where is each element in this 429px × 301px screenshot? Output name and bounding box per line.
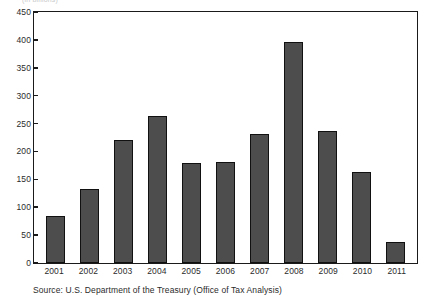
- x-axis-label-2010: 2010: [345, 266, 379, 276]
- x-axis-label-2006: 2006: [208, 266, 242, 276]
- y-axis-tick: 250: [9, 119, 34, 129]
- x-axis-labels: 2001200220032004200520062007200820092010…: [33, 266, 418, 276]
- y-axis-tick: 200: [9, 146, 34, 156]
- bar-chart-figure: (in billions) 05010015020025030035040045…: [0, 0, 429, 301]
- bar-slot: [208, 12, 242, 263]
- x-axis-label-2001: 2001: [37, 266, 71, 276]
- x-axis-label-2011: 2011: [380, 266, 414, 276]
- x-axis-label-2004: 2004: [140, 266, 174, 276]
- y-axis-tick-label: 50: [9, 230, 34, 240]
- bar-2007: [250, 134, 269, 263]
- bar-slot: [106, 12, 140, 263]
- y-axis-tick-label: 300: [9, 91, 34, 101]
- y-axis-tick: 100: [9, 202, 34, 212]
- bar-2003: [114, 140, 133, 263]
- y-axis-tick-label: 0: [9, 258, 34, 268]
- y-axis-tick-label: 400: [9, 35, 34, 45]
- x-axis-label-2008: 2008: [277, 266, 311, 276]
- bar-2005: [182, 163, 201, 263]
- y-axis-tick: 300: [9, 91, 34, 101]
- y-axis-tick: 0: [9, 258, 34, 268]
- bar-slot: [277, 12, 311, 263]
- clipped-header-text: (in billions): [22, 0, 58, 4]
- y-axis-tick: 350: [9, 63, 34, 73]
- y-axis-tick-label: 100: [9, 202, 34, 212]
- bar-slot: [345, 12, 379, 263]
- bar-2002: [80, 189, 99, 263]
- x-axis-label-2005: 2005: [174, 266, 208, 276]
- bar-series: [34, 12, 417, 263]
- y-axis-tick-label: 150: [9, 174, 34, 184]
- bar-slot: [140, 12, 174, 263]
- x-axis-label-2002: 2002: [71, 266, 105, 276]
- y-axis-tick: 450: [9, 7, 34, 17]
- y-axis-tick: 400: [9, 35, 34, 45]
- bar-slot: [38, 12, 72, 263]
- bar-2011: [386, 242, 405, 263]
- bar-2006: [216, 162, 235, 264]
- bar-2008: [284, 42, 303, 263]
- bar-slot: [72, 12, 106, 263]
- bar-slot: [379, 12, 413, 263]
- bar-2001: [46, 216, 65, 263]
- source-note: Source: U.S. Department of the Treasury …: [33, 285, 282, 295]
- bar-2004: [148, 116, 167, 263]
- bar-slot: [243, 12, 277, 263]
- y-axis-tick-label: 450: [9, 7, 34, 17]
- x-axis-label-2009: 2009: [311, 266, 345, 276]
- y-axis-tick-label: 250: [9, 119, 34, 129]
- bar-slot: [174, 12, 208, 263]
- y-axis-tick: 50: [9, 230, 34, 240]
- bar-2009: [318, 131, 337, 263]
- bar-slot: [311, 12, 345, 263]
- y-axis-tick: 150: [9, 174, 34, 184]
- x-axis-label-2007: 2007: [243, 266, 277, 276]
- bar-2010: [352, 172, 371, 263]
- plot-area: 050100150200250300350400450: [33, 11, 418, 264]
- y-axis-tick-label: 200: [9, 146, 34, 156]
- y-axis-tick-label: 350: [9, 63, 34, 73]
- x-axis-label-2003: 2003: [106, 266, 140, 276]
